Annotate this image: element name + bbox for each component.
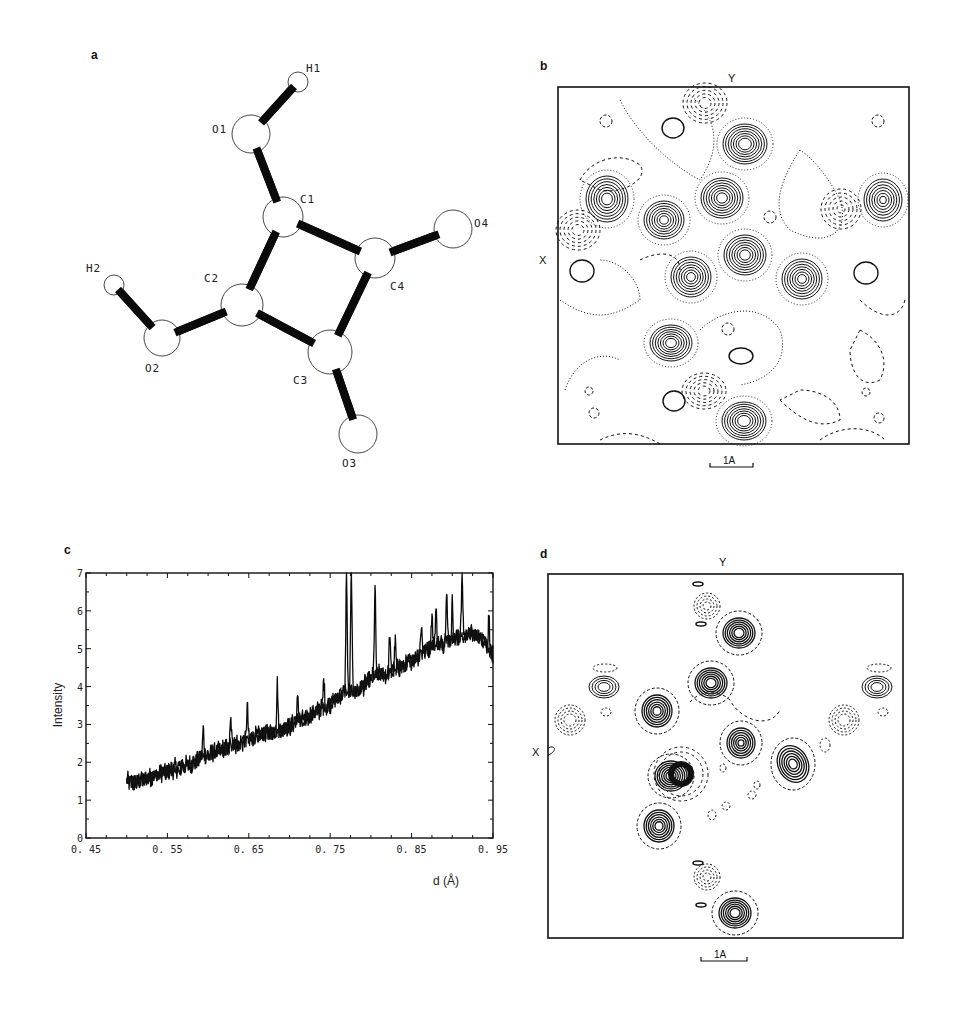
chart-x-tick-label: 0. 65 [234,844,264,855]
chart-y-tick-label: 3 [77,719,83,730]
chart-y-tick-label: 2 [77,757,83,768]
chart-x-tick-label: 0. 85 [397,844,427,855]
chart-y-tick-label: 0 [77,833,83,844]
chart-y-axis-label: Intensity [51,683,65,728]
chart-x-tick-label: 0. 95 [478,844,508,855]
chart-y-tick-label: 5 [77,644,83,655]
intensity-trace [127,573,493,790]
chart-y-tick-label: 1 [77,795,83,806]
chart-x-tick-label: 0. 75 [315,844,345,855]
chart-x-tick-label: 0. 55 [152,844,182,855]
chart-x-tick-label: 0. 45 [71,844,101,855]
chart-y-tick-label: 4 [77,682,83,693]
intensity-chart: 012345670. 450. 550. 650. 750. 850. 95 I… [0,0,953,1014]
chart-y-tick-label: 7 [77,568,83,579]
chart-x-axis-label: d (Å) [433,873,459,888]
chart-y-tick-label: 6 [77,606,83,617]
